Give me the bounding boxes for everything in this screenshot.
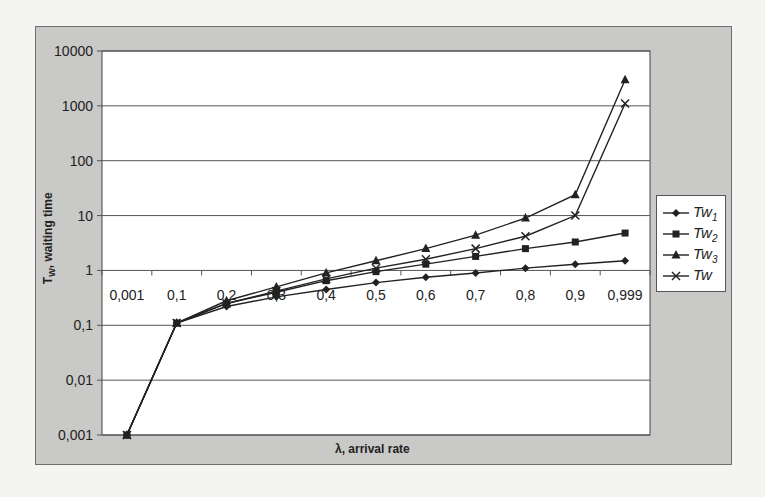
chart-plot: 1000010001001010,10,010,0010,0010,10,20,… [0,0,765,497]
svg-text:0,001: 0,001 [58,427,93,443]
svg-text:0,7: 0,7 [466,287,486,303]
svg-text:0,1: 0,1 [74,317,94,333]
svg-text:0,1: 0,1 [167,287,187,303]
svg-text:0,01: 0,01 [66,372,93,388]
svg-text:1000: 1000 [62,98,93,114]
legend-item-tw2: Tw2 [657,223,725,244]
x-axis-title: λ, arrival rate [335,442,410,456]
triangle-marker-icon [661,249,691,261]
svg-text:10000: 10000 [54,43,93,59]
legend-item-tw1: Tw1 [657,202,725,223]
svg-text:100: 100 [70,153,94,169]
x-marker-icon [661,270,691,282]
y-axis-title: TW, waiting time [41,168,57,308]
svg-text:0,5: 0,5 [366,287,386,303]
svg-text:0,9: 0,9 [566,287,586,303]
y-axis-title-rest: , waiting time [41,192,55,268]
svg-text:1: 1 [85,262,93,278]
legend: Tw1 Tw2 Tw3 Tw [656,195,726,292]
legend-item-tw: Tw [657,265,725,286]
diamond-marker-icon [661,207,691,219]
y-axis-title-main: T [41,277,55,284]
square-marker-icon [661,228,691,240]
svg-text:0,8: 0,8 [516,287,536,303]
y-axis-title-sub: W [47,268,57,277]
svg-text:0,999: 0,999 [608,287,643,303]
legend-item-tw3: Tw3 [657,244,725,265]
svg-text:0,6: 0,6 [416,287,436,303]
svg-text:0,001: 0,001 [109,287,144,303]
svg-text:10: 10 [77,208,93,224]
